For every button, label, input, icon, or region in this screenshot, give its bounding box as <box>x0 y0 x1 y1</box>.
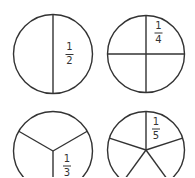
fraction-label-quarter: 1 4 <box>155 20 163 45</box>
numerator: 1 <box>153 116 159 127</box>
fraction-label-half: 1 2 <box>66 41 74 66</box>
denominator: 5 <box>153 130 159 141</box>
numerator: 1 <box>64 153 70 164</box>
circle-fifths: 1 5 <box>108 112 185 178</box>
numerator: 1 <box>155 20 161 31</box>
fraction-label-fifth: 1 5 <box>152 116 160 141</box>
divider-line-upper-right <box>53 131 87 151</box>
circle-quarters: 1 4 <box>108 16 185 93</box>
divider-line-right <box>146 138 183 150</box>
denominator: 3 <box>64 167 70 177</box>
divider-line-upper-left <box>19 131 53 151</box>
divider-line-lower-right <box>146 150 169 177</box>
fraction-diagram: 1 2 1 4 1 3 1 <box>0 0 195 177</box>
denominator: 2 <box>66 55 72 66</box>
numerator: 1 <box>66 41 72 52</box>
circle-halves: 1 2 <box>14 15 93 94</box>
fraction-label-third: 1 3 <box>63 153 71 177</box>
divider-line-lower-left <box>123 150 146 177</box>
circle-thirds: 1 3 <box>14 112 93 178</box>
divider-line-left <box>109 138 146 150</box>
denominator: 4 <box>155 34 161 45</box>
